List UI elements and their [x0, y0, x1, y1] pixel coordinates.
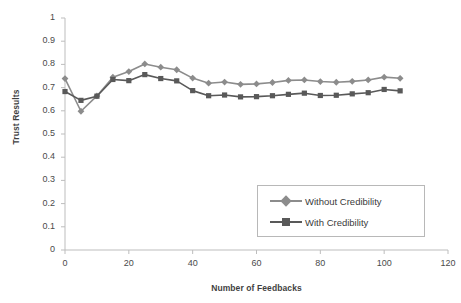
chart-legend: Without Credibility With Credibility	[257, 185, 425, 237]
legend-label-1: With Credibility	[305, 217, 368, 228]
legend-item-0: Without Credibility	[270, 193, 382, 209]
legend-item-1: With Credibility	[270, 214, 368, 230]
x-axis-title: Number of Feedbacks	[65, 283, 448, 293]
y-tick-label: 0.5	[19, 128, 55, 138]
y-tick-label: 0.2	[19, 198, 55, 208]
y-tick-label: 1	[19, 12, 55, 22]
trust-results-line-chart: Trust Results Number of Feedbacks Withou…	[0, 0, 461, 303]
x-tick-label: 80	[300, 258, 340, 268]
legend-marker-diamond-icon	[270, 195, 302, 207]
x-tick-label: 20	[109, 258, 149, 268]
y-tick-label: 0.7	[19, 82, 55, 92]
x-tick-label: 0	[45, 258, 85, 268]
legend-label-0: Without Credibility	[305, 196, 382, 207]
x-tick-label: 120	[428, 258, 461, 268]
y-tick-label: 0	[19, 244, 55, 254]
x-tick-label: 40	[173, 258, 213, 268]
y-tick-label: 0.8	[19, 58, 55, 68]
y-tick-label: 0.1	[19, 221, 55, 231]
x-tick-label: 60	[237, 258, 277, 268]
x-tick-label: 100	[364, 258, 404, 268]
y-tick-label: 0.6	[19, 105, 55, 115]
y-tick-label: 0.4	[19, 151, 55, 161]
y-tick-label: 0.9	[19, 35, 55, 45]
y-tick-label: 0.3	[19, 174, 55, 184]
legend-marker-square-icon	[270, 216, 302, 228]
